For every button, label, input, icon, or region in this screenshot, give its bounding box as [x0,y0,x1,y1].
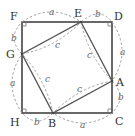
outer-square [22,22,112,113]
label-B: B [48,117,56,130]
label-F: F [10,10,18,23]
label-BG: c [45,74,50,84]
inner-square [22,22,112,113]
label-AB: c [77,84,82,94]
label-HG: a [10,78,15,88]
label-A: A [115,76,125,89]
label-GE: c [55,40,60,50]
label-EA: c [87,50,92,60]
vertex-B [52,112,55,115]
label-FE: a [49,7,54,17]
label-GF: b [11,33,17,43]
label-C: C [115,115,123,128]
label-BH: b [34,117,40,127]
label-D: D [114,10,123,23]
label-E: E [74,7,82,20]
label-CB: a [80,120,85,130]
vertex-E [80,21,83,24]
label-DA: a [120,47,125,57]
vertex-A [111,80,114,83]
square-diagram: F E D A C B H G a b a b a b a b c c c c [0,0,135,136]
label-G: G [6,48,15,61]
label-ED: b [95,9,101,19]
label-AC: b [118,92,124,102]
label-H: H [10,116,20,129]
vertex-G [21,53,24,56]
